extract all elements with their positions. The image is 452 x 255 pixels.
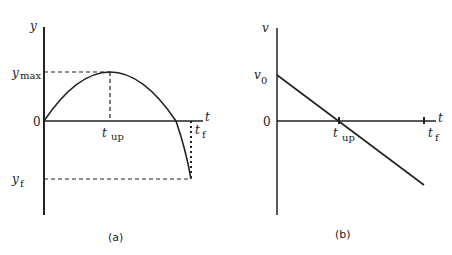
tup-label: t xyxy=(102,126,107,140)
tf-subscript: f xyxy=(435,132,440,143)
origin-label: 0 xyxy=(263,115,271,129)
panel-b-caption: (b) xyxy=(335,228,351,241)
t-axis-label: t xyxy=(438,111,443,125)
v-axis-label: v xyxy=(262,21,269,35)
yf-label: y xyxy=(11,172,19,186)
t-axis-label: t xyxy=(205,110,210,124)
projectile-motion-figure: y t 0 y max y f t up t f (a) v t 0 v 0 t… xyxy=(0,0,452,255)
tup-label: t xyxy=(333,126,338,140)
panel-a-caption: (a) xyxy=(108,231,123,244)
v0-label: v xyxy=(254,68,261,82)
tup-subscript: up xyxy=(111,131,124,142)
tf-label: t xyxy=(195,123,200,137)
y-axis-label: y xyxy=(29,19,37,33)
velocity-line xyxy=(277,75,424,185)
position-curve xyxy=(44,72,191,179)
panel-a-position-graph: y t 0 y max y f t up t f (a) xyxy=(11,19,210,244)
ymax-label: y xyxy=(11,66,19,80)
panel-b-velocity-graph: v t 0 v 0 t up t f (b) xyxy=(254,21,443,241)
tup-subscript: up xyxy=(342,132,355,143)
origin-label: 0 xyxy=(33,115,41,129)
v0-subscript: 0 xyxy=(261,75,267,86)
yf-subscript: f xyxy=(20,178,25,189)
tf-label: t xyxy=(428,126,433,140)
ymax-subscript: max xyxy=(20,70,41,81)
tf-subscript: f xyxy=(202,129,207,140)
